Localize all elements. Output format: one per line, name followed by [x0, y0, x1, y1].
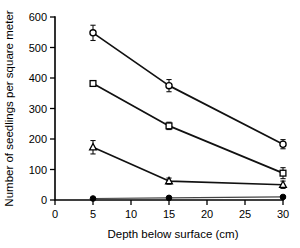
series-line: [93, 33, 283, 144]
y-tick-label: 0: [41, 194, 47, 206]
x-tick-label: 10: [125, 208, 137, 220]
data-point-filled-circle: [90, 196, 96, 202]
y-tick-label: 500: [29, 42, 47, 54]
x-tick-label: 0: [52, 208, 58, 220]
series-open-circle: [90, 25, 286, 149]
axis-spine: [55, 17, 283, 200]
x-tick-label: 15: [163, 208, 175, 220]
x-tick-label: 25: [239, 208, 251, 220]
x-tick-label: 30: [277, 208, 289, 220]
y-tick-label: 300: [29, 103, 47, 115]
data-point-open-triangle: [280, 181, 287, 187]
chart-plot-area: 0100200300400500600051015202530Depth bel…: [0, 0, 300, 248]
data-point-open-square: [166, 123, 172, 129]
y-tick-label: 400: [29, 72, 47, 84]
x-tick-label: 20: [201, 208, 213, 220]
y-tick-label: 200: [29, 133, 47, 145]
data-point-filled-circle: [280, 194, 286, 200]
data-point-open-square: [90, 81, 96, 87]
y-tick-label: 100: [29, 164, 47, 176]
data-point-filled-circle: [166, 195, 172, 201]
y-axis-title: Number of seedlings per square meter: [3, 10, 15, 206]
y-tick-label: 600: [29, 11, 47, 23]
x-tick-label: 5: [90, 208, 96, 220]
data-point-open-circle: [280, 141, 286, 147]
x-axis-title: Depth below surface (cm): [107, 228, 238, 240]
series-line: [93, 147, 283, 185]
data-point-open-circle: [166, 83, 172, 89]
data-point-open-triangle: [90, 144, 97, 150]
chart-figure: 0100200300400500600051015202530Depth bel…: [0, 0, 300, 248]
series-line: [93, 197, 283, 199]
series-open-triangle: [90, 141, 287, 189]
data-point-open-circle: [90, 30, 96, 36]
data-point-open-square: [280, 170, 286, 176]
